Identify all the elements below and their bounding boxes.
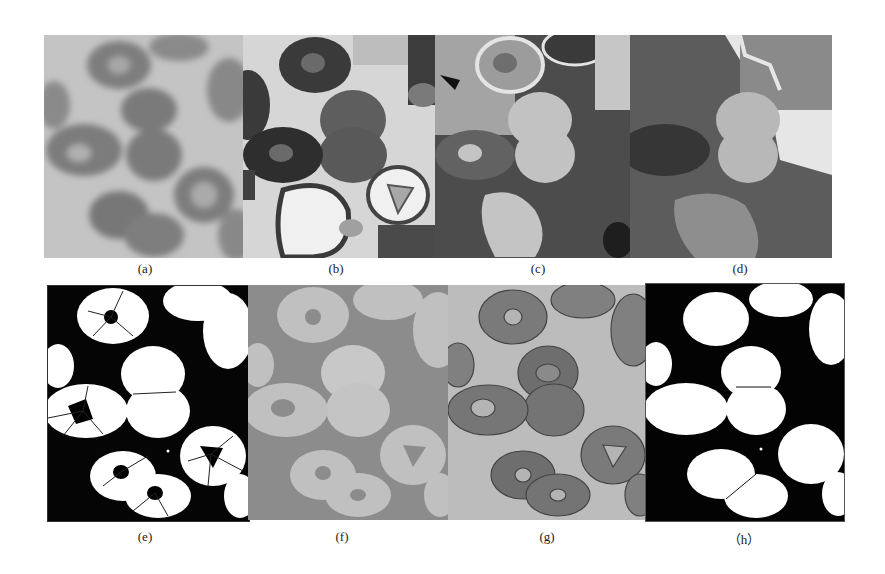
panel-f-image bbox=[248, 285, 448, 520]
panel-e-image bbox=[47, 285, 250, 522]
panel-g-label: (g) bbox=[517, 529, 577, 545]
panel-c-label: (c) bbox=[508, 261, 568, 277]
panel-g-image bbox=[448, 285, 645, 520]
panel-a-image bbox=[44, 35, 243, 258]
panel-c-image bbox=[435, 35, 630, 258]
panel-h-image bbox=[645, 283, 845, 522]
panel-a-label: (a) bbox=[115, 261, 175, 277]
panel-d-image bbox=[630, 35, 832, 258]
panel-e-label: (e) bbox=[115, 529, 175, 545]
panel-b-image bbox=[243, 35, 435, 258]
panel-d-label: (d) bbox=[710, 261, 770, 277]
panel-h-label: （h） bbox=[714, 529, 774, 548]
panel-f-label: (f) bbox=[312, 529, 372, 545]
panel-b-label: (b) bbox=[306, 261, 366, 277]
